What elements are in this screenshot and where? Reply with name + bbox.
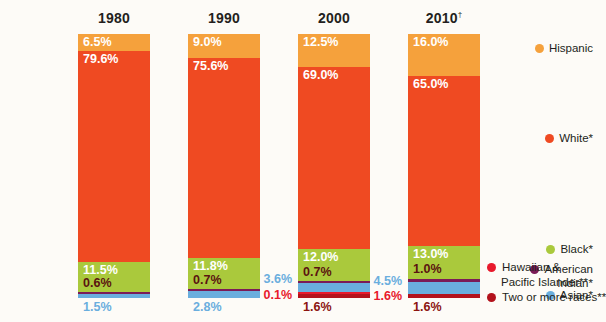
segment-2000-white: 69.0% bbox=[298, 67, 370, 249]
legend-item-two-or-more-races-label: Two or more races** bbox=[502, 290, 606, 305]
bar-2000-hawaiian-pacific-islander-value: 0.1% bbox=[248, 288, 292, 302]
segment-1990-hispanic: 9.0% bbox=[188, 34, 260, 58]
black-legend-dot-icon bbox=[546, 245, 555, 254]
bar-2010-two-or-more-races-value-left: 1.6% bbox=[358, 289, 402, 303]
bar-2000-asian-value: 3.6% bbox=[248, 272, 292, 286]
bar-2010-two-or-more-races-value: 1.6% bbox=[413, 300, 442, 314]
legend-item-hawaiian-pacific-islander-label-line1: Hawaiian & bbox=[502, 260, 560, 275]
segment-2010-american-indian-value: 1.0% bbox=[413, 263, 442, 276]
dagger-footnote-marker: † bbox=[458, 10, 463, 19]
segment-2000-white-value: 69.0% bbox=[303, 69, 338, 82]
white-legend-dot-icon bbox=[545, 134, 554, 143]
legend-item-white: White* bbox=[519, 131, 593, 145]
segment-1980-white: 79.6% bbox=[78, 51, 150, 262]
year-header-1980-text: 1980 bbox=[98, 10, 130, 26]
legend-item-two-or-more-races: Two or more races** bbox=[487, 290, 606, 305]
segment-1980-asian bbox=[78, 294, 150, 298]
year-header-2010: 2010† bbox=[408, 10, 480, 26]
year-header-2000: 2000 bbox=[298, 10, 370, 26]
legend-item-hawaiian-pacific-islander: Hawaiian & Pacific Islander** bbox=[487, 260, 588, 290]
segment-2010-two-or-more-races bbox=[408, 294, 480, 298]
legend-item-hispanic-label: Hispanic bbox=[549, 41, 593, 55]
segment-1990-white-value: 75.6% bbox=[193, 60, 228, 73]
year-header-1990: 1990 bbox=[188, 10, 260, 26]
segment-1980-hispanic-value: 6.5% bbox=[83, 36, 112, 49]
segment-2000-hispanic: 12.5% bbox=[298, 34, 370, 67]
bar-1980: 6.5% 79.6% 11.5% 0.6% bbox=[78, 34, 150, 298]
segment-2010-white-value: 65.0% bbox=[413, 78, 448, 91]
segment-2010-black-value: 13.0% bbox=[413, 248, 448, 261]
segment-2010-hispanic-value: 16.0% bbox=[413, 36, 448, 49]
year-header-1990-text: 1990 bbox=[208, 10, 240, 26]
segment-1990-white: 75.6% bbox=[188, 58, 260, 258]
segment-2000-american-indian-value: 0.7% bbox=[303, 266, 332, 279]
bar-2010: 16.0% 65.0% 13.0% 1.0% bbox=[408, 34, 480, 298]
bar-1980-asian-value: 1.5% bbox=[83, 300, 112, 314]
segment-1980-white-value: 79.6% bbox=[83, 53, 118, 66]
segment-2010-asian bbox=[408, 282, 480, 294]
legend-item-hispanic: Hispanic bbox=[519, 41, 593, 55]
legend-item-hawaiian-pacific-islander-label-line2: Pacific Islander** bbox=[501, 275, 588, 290]
bar-2000-two-or-more-races-value: 1.6% bbox=[303, 300, 332, 314]
hawaiian-pacific-islander-legend-dot-icon bbox=[487, 263, 496, 272]
hispanic-legend-dot-icon bbox=[535, 44, 544, 53]
year-header-2000-text: 2000 bbox=[318, 10, 350, 26]
year-header-1980: 1980 bbox=[78, 10, 150, 26]
bar-1990: 9.0% 75.6% 11.8% 0.7% bbox=[188, 34, 260, 298]
segment-1980-american-indian-value: 0.6% bbox=[83, 277, 112, 290]
bar-2000: 12.5% 69.0% 12.0% 0.7% bbox=[298, 34, 370, 298]
segment-1980-black-value: 11.5% bbox=[83, 264, 118, 277]
bar-1990-asian-value: 2.8% bbox=[193, 300, 222, 314]
legend-item-black: Black* bbox=[519, 242, 593, 256]
legend-item-black-label: Black* bbox=[560, 242, 593, 256]
segment-1990-american-indian-value: 0.7% bbox=[193, 274, 222, 287]
segment-1980-hispanic: 6.5% bbox=[78, 34, 150, 51]
segment-2000-hispanic-value: 12.5% bbox=[303, 36, 338, 49]
segment-2010-white: 65.0% bbox=[408, 76, 480, 246]
year-header-2010-text: 2010 bbox=[426, 10, 458, 26]
legend-item-white-label: White* bbox=[559, 131, 593, 145]
segment-1990-hispanic-value: 9.0% bbox=[193, 36, 222, 49]
two-or-more-races-legend-dot-icon bbox=[487, 293, 496, 302]
segment-1990-black-value: 11.8% bbox=[193, 260, 228, 273]
bar-2010-asian-value: 4.5% bbox=[358, 274, 402, 288]
segment-2010-hispanic: 16.0% bbox=[408, 34, 480, 76]
segment-2000-black-value: 12.0% bbox=[303, 251, 338, 264]
